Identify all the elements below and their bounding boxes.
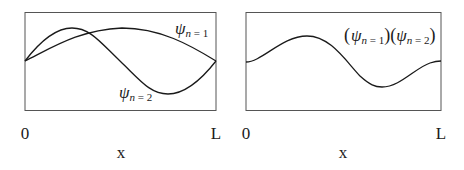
- right-x-end-label: L: [436, 124, 446, 143]
- label-product: (ψn = 1)(ψn = 2): [344, 25, 436, 46]
- left-x-start-label: 0: [21, 124, 30, 143]
- right-x-axis-label: x: [339, 143, 348, 162]
- left-panel: ψn = 1 ψn = 2 0 L x: [21, 13, 221, 163]
- left-x-axis-label: x: [117, 143, 126, 162]
- right-panel: (ψn = 1)(ψn = 2) 0 L x: [242, 13, 446, 163]
- label-psi-n1: ψn = 1: [175, 19, 208, 39]
- right-x-start-label: 0: [242, 124, 251, 143]
- left-x-end-label: L: [211, 124, 221, 143]
- figure: ψn = 1 ψn = 2 0 L x (ψn = 1)(ψn = 2) 0 L…: [0, 0, 464, 170]
